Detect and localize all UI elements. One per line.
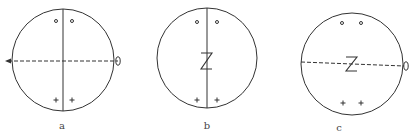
pole-open-icon bbox=[196, 21, 199, 24]
pole-open-icon bbox=[71, 20, 74, 23]
stereogram-c bbox=[301, 13, 408, 115]
stereogram-a bbox=[5, 9, 120, 111]
pole-plus-icon bbox=[195, 98, 200, 103]
pole-open-icon bbox=[341, 22, 344, 25]
pole-plus-icon bbox=[70, 98, 75, 103]
panel-label-c: c bbox=[336, 122, 342, 133]
panel-label-b: b bbox=[204, 120, 210, 131]
stereogram-figure bbox=[0, 0, 412, 138]
pole-open-icon bbox=[360, 22, 363, 25]
panel-label-a: a bbox=[59, 120, 65, 131]
pole-plus-icon bbox=[341, 101, 346, 106]
arrow-left-icon bbox=[5, 59, 11, 64]
pole-plus-icon bbox=[54, 98, 59, 103]
twofold-axis-icon bbox=[404, 62, 408, 70]
pole-open-icon bbox=[216, 21, 219, 24]
pole-plus-icon bbox=[359, 101, 364, 106]
stereogram-b bbox=[157, 8, 257, 108]
pole-open-icon bbox=[55, 20, 58, 23]
pole-plus-icon bbox=[215, 98, 220, 103]
